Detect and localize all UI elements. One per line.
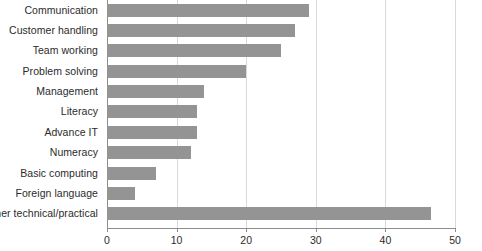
bar: [107, 4, 309, 17]
bar: [107, 65, 246, 78]
value-tick-label: 50: [449, 234, 461, 246]
category-label-row: Other technical/practical: [0, 204, 104, 224]
category-label: Management: [36, 86, 98, 97]
category-label-row: Basic computing: [0, 163, 104, 183]
bar: [107, 187, 135, 200]
value-axis: 01020304050: [107, 228, 455, 251]
category-label-row: Customer handling: [0, 20, 104, 40]
category-label: Team working: [33, 45, 98, 56]
value-tick-label: 0: [104, 234, 110, 246]
plot-area: [107, 0, 455, 228]
bar: [107, 167, 156, 180]
value-tick-mark: [316, 228, 317, 232]
value-tick-mark: [455, 228, 456, 232]
bar-row: [107, 81, 455, 101]
bar: [107, 126, 197, 139]
bar: [107, 24, 295, 37]
bar-row: [107, 102, 455, 122]
bars-layer: [107, 0, 455, 228]
bar: [107, 207, 431, 220]
bar-row: [107, 163, 455, 183]
bar: [107, 85, 204, 98]
category-label: Problem solving: [23, 66, 98, 77]
value-tick-label: 40: [380, 234, 392, 246]
bar-row: [107, 183, 455, 203]
value-tick-mark: [246, 228, 247, 232]
bar-chart: CommunicationCustomer handlingTeam worki…: [0, 0, 482, 251]
category-label-row: Team working: [0, 41, 104, 61]
value-tick-mark: [107, 228, 108, 232]
category-label-row: Foreign language: [0, 183, 104, 203]
bar-row: [107, 20, 455, 40]
category-label-row: Numeracy: [0, 143, 104, 163]
category-label: Customer handling: [9, 25, 98, 36]
category-label-row: Communication: [0, 0, 104, 20]
category-axis: CommunicationCustomer handlingTeam worki…: [0, 0, 104, 228]
bar-row: [107, 143, 455, 163]
category-label: Other technical/practical: [0, 208, 98, 219]
value-tick-mark: [177, 228, 178, 232]
category-label-row: Problem solving: [0, 61, 104, 81]
category-label: Foreign language: [15, 188, 98, 199]
category-label-row: Advance IT: [0, 122, 104, 142]
category-label: Advance IT: [44, 127, 98, 138]
category-label: Numeracy: [50, 147, 98, 158]
category-label-row: Literacy: [0, 102, 104, 122]
bar-row: [107, 122, 455, 142]
value-tick-label: 30: [310, 234, 322, 246]
bar-row: [107, 204, 455, 224]
category-label: Basic computing: [20, 168, 98, 179]
value-tick-label: 20: [240, 234, 252, 246]
bar-row: [107, 41, 455, 61]
gridline: [455, 0, 456, 228]
value-tick-mark: [385, 228, 386, 232]
bar: [107, 105, 197, 118]
bar-row: [107, 61, 455, 81]
category-label-row: Management: [0, 81, 104, 101]
bar: [107, 146, 191, 159]
category-label: Literacy: [61, 106, 98, 117]
category-label: Communication: [24, 5, 98, 16]
bar-row: [107, 0, 455, 20]
bar: [107, 44, 281, 57]
value-tick-label: 10: [171, 234, 183, 246]
